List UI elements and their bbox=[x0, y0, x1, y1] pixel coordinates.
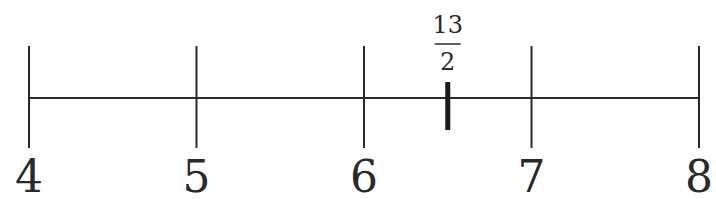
tick-label-4: 4 bbox=[15, 151, 43, 199]
tick-label-5: 5 bbox=[183, 151, 211, 199]
tick-label-7: 7 bbox=[518, 151, 546, 199]
fraction-denominator: 2 bbox=[440, 48, 455, 76]
marked-point-group: 13 2 bbox=[432, 11, 463, 130]
number-line: 45678 13 2 bbox=[0, 0, 716, 199]
fraction-numerator: 13 bbox=[432, 11, 463, 39]
tick-label-6: 6 bbox=[350, 151, 378, 199]
tick-label-8: 8 bbox=[685, 151, 713, 199]
tick-labels-group: 45678 bbox=[15, 151, 713, 199]
